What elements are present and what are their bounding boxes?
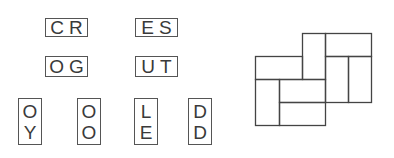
grid-cell-right-vertical-a[interactable]: [326, 57, 349, 103]
grid-cell-middle-horizontal[interactable]: [280, 80, 326, 103]
grid-cell-bottom-left-vertical[interactable]: [256, 80, 280, 126]
grid-cell-left-upper-horizontal[interactable]: [256, 57, 303, 80]
grid-cell-bottom-horizontal[interactable]: [280, 103, 326, 126]
grid-cell-right-vertical-b[interactable]: [349, 57, 372, 103]
puzzle-grid: [0, 0, 394, 158]
grid-cell-top-right-horizontal[interactable]: [326, 34, 372, 57]
grid-cell-top-middle-vertical[interactable]: [303, 34, 326, 80]
